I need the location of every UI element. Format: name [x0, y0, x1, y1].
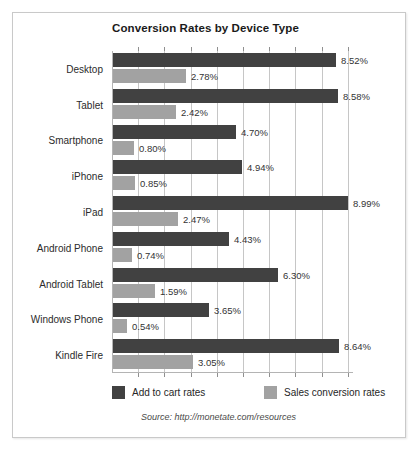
bar-add-to-cart: 4.70%: [113, 125, 236, 139]
bar-group: Desktop8.52%2.78%: [112, 51, 353, 87]
bar-add-to-cart: 8.64%: [113, 339, 339, 353]
bar-value-label: 0.85%: [140, 178, 167, 189]
plot-area: Desktop8.52%2.78%Tablet8.58%2.42%Smartph…: [112, 51, 353, 373]
bar-sales-conversion: 0.80%: [113, 141, 134, 155]
category-label: Smartphone: [49, 135, 103, 146]
category-label: iPhone: [72, 171, 103, 182]
category-label: Desktop: [66, 63, 103, 74]
bar-value-label: 4.43%: [234, 233, 261, 244]
chart-legend: Add to cart ratesSales conversion rates: [112, 386, 392, 402]
legend-label: Add to cart rates: [132, 387, 205, 398]
bar-value-label: 3.65%: [214, 305, 241, 316]
x-tick-bottom: [138, 373, 139, 377]
bar-value-label: 3.05%: [198, 357, 225, 368]
chart-figure: Conversion Rates by Device Type Desktop8…: [0, 0, 420, 458]
bar-value-label: 0.74%: [137, 249, 164, 260]
bar-sales-conversion: 2.78%: [113, 69, 186, 83]
legend-label: Sales conversion rates: [284, 387, 385, 398]
x-tick-bottom: [322, 373, 323, 377]
bar-sales-conversion: 1.59%: [113, 284, 155, 298]
bar-group: Tablet8.58%2.42%: [112, 87, 353, 123]
bar-add-to-cart: 6.30%: [113, 268, 278, 282]
x-tick-bottom: [164, 373, 165, 377]
bar-sales-conversion: 0.85%: [113, 176, 135, 190]
bar-value-label: 4.70%: [241, 126, 268, 137]
bar-value-label: 8.99%: [353, 198, 380, 209]
bar-add-to-cart: 4.94%: [113, 160, 242, 174]
bar-group: iPhone4.94%0.85%: [112, 158, 353, 194]
bar-add-to-cart: 8.58%: [113, 89, 338, 103]
bar-value-label: 1.59%: [160, 285, 187, 296]
source-note: Source: http://monetate.com/resources: [141, 412, 296, 422]
bar-add-to-cart: 4.43%: [113, 232, 229, 246]
bar-add-to-cart: 8.52%: [113, 53, 336, 67]
x-tick-bottom: [269, 373, 270, 377]
bar-value-label: 2.47%: [183, 214, 210, 225]
bar-value-label: 8.58%: [343, 90, 370, 101]
bar-add-to-cart: 8.99%: [113, 196, 348, 210]
bar-value-label: 2.42%: [181, 106, 208, 117]
x-tick-bottom: [295, 373, 296, 377]
category-label: Windows Phone: [31, 314, 103, 325]
x-tick-bottom: [217, 373, 218, 377]
bar-group: Smartphone4.70%0.80%: [112, 123, 353, 159]
chart-title: Conversion Rates by Device Type: [112, 22, 299, 34]
category-label: Android Tablet: [39, 278, 103, 289]
bar-value-label: 8.52%: [341, 55, 368, 66]
legend-swatch-icon: [264, 386, 277, 399]
legend-item[interactable]: Add to cart rates: [112, 386, 205, 399]
bar-sales-conversion: 0.74%: [113, 248, 132, 262]
bar-value-label: 8.64%: [344, 341, 371, 352]
bar-value-label: 4.94%: [247, 162, 274, 173]
category-label: Kindle Fire: [55, 350, 103, 361]
bar-value-label: 0.54%: [132, 321, 159, 332]
bar-sales-conversion: 0.54%: [113, 319, 127, 333]
bar-group: Windows Phone3.65%0.54%: [112, 301, 353, 337]
bar-value-label: 2.78%: [191, 71, 218, 82]
category-label: Android Phone: [37, 242, 103, 253]
bar-group: Kindle Fire8.64%3.05%: [112, 337, 353, 373]
bar-value-label: 0.80%: [139, 142, 166, 153]
legend-swatch-icon: [112, 386, 125, 399]
category-label: Tablet: [76, 99, 103, 110]
bar-sales-conversion: 2.42%: [113, 105, 176, 119]
bar-group: Android Phone4.43%0.74%: [112, 230, 353, 266]
bar-sales-conversion: 3.05%: [113, 355, 193, 369]
bar-group: Android Tablet6.30%1.59%: [112, 266, 353, 302]
x-tick-bottom: [243, 373, 244, 377]
category-label: iPad: [83, 206, 103, 217]
bar-group: iPad8.99%2.47%: [112, 194, 353, 230]
bar-sales-conversion: 2.47%: [113, 212, 178, 226]
x-tick-bottom: [191, 373, 192, 377]
x-tick-bottom: [348, 373, 349, 377]
bar-add-to-cart: 3.65%: [113, 303, 209, 317]
bar-value-label: 6.30%: [283, 269, 310, 280]
legend-item[interactable]: Sales conversion rates: [264, 386, 385, 399]
